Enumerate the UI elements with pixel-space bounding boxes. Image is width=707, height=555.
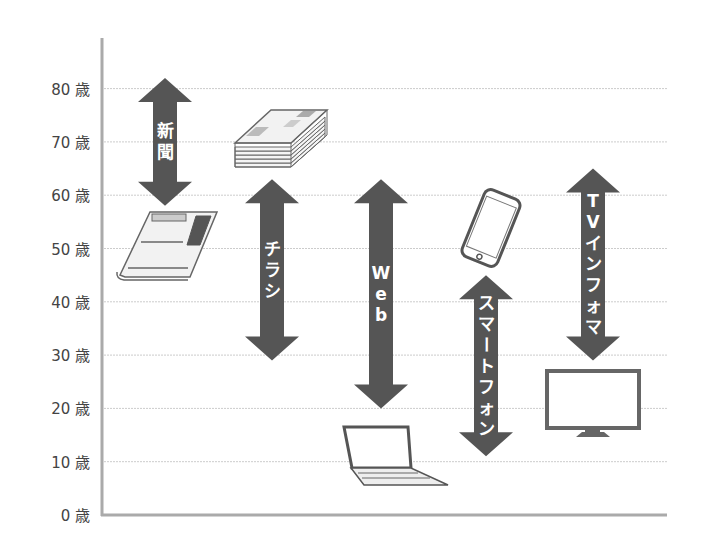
arrow-label-char: ト	[478, 356, 495, 376]
arrow-label-char: V	[586, 212, 600, 232]
arrow-label-char: シ	[264, 281, 281, 301]
arrow-label-char: ォ	[585, 296, 602, 316]
arrow-label-char: イ	[585, 233, 602, 253]
arrow-label-char: マ	[585, 317, 602, 337]
arrow-label-char: チ	[264, 239, 281, 259]
y-tick-label: 50 歳	[51, 241, 90, 259]
arrow-label-char: フ	[478, 377, 495, 397]
y-tick-label: 40 歳	[51, 294, 90, 312]
arrow-label-char: ォ	[478, 398, 495, 418]
newspaper-icon	[117, 212, 217, 280]
range-arrow-1: チラシ	[245, 179, 299, 360]
smartphone-icon	[460, 188, 522, 269]
arrow-label-char: T	[587, 191, 599, 211]
range-arrow-4: TVインフォマ	[566, 169, 620, 361]
y-tick-label: 70 歳	[51, 134, 90, 152]
arrow-label-char: W	[372, 263, 391, 283]
y-tick-label: 0 歳	[61, 507, 90, 525]
range-arrow-2: Web	[354, 179, 408, 408]
arrow-label-char: ス	[478, 293, 495, 313]
y-tick-label: 60 歳	[51, 187, 90, 205]
arrow-label-char: ラ	[264, 260, 281, 280]
range-arrow-3: スマートフォン	[459, 275, 513, 456]
y-tick-label: 80 歳	[51, 81, 90, 99]
arrow-label-char: 新	[157, 121, 174, 141]
y-tick-label: 10 歳	[51, 454, 90, 472]
age-range-chart: 0 歳10 歳20 歳30 歳40 歳50 歳60 歳70 歳80 歳	[0, 0, 707, 555]
flyer-stack-icon	[235, 110, 327, 167]
arrow-label-char: 聞	[157, 142, 174, 162]
arrow-label-char: ン	[478, 419, 495, 439]
arrow-label-char: マ	[478, 314, 495, 334]
y-tick-label: 20 歳	[51, 400, 90, 418]
arrow-label-char: ン	[585, 254, 602, 274]
arrow-label-char: b	[375, 305, 387, 325]
laptop-icon	[344, 427, 448, 485]
y-axis-tick-labels: 0 歳10 歳20 歳30 歳40 歳50 歳60 歳70 歳80 歳	[51, 81, 90, 525]
arrow-label-char: フ	[585, 275, 602, 295]
tv-icon	[547, 371, 639, 437]
y-tick-label: 30 歳	[51, 347, 90, 365]
arrow-label-char: e	[375, 284, 387, 304]
arrow-label-char: ー	[476, 336, 496, 353]
